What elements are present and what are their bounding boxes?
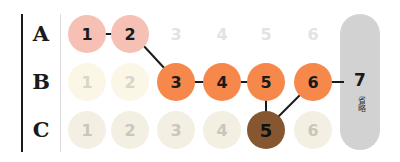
terminal-note: 省略: [340, 96, 380, 112]
cell-a2[interactable]: 2: [111, 15, 149, 53]
cell-b2[interactable]: 2: [111, 63, 149, 101]
cell-c1[interactable]: 1: [68, 111, 106, 149]
cell-a6[interactable]: 6: [294, 15, 332, 53]
cell-b5[interactable]: 5: [247, 63, 285, 101]
cell-a1[interactable]: 1: [68, 15, 106, 53]
cell-a3[interactable]: 3: [157, 15, 195, 53]
cell-b4[interactable]: 4: [203, 63, 241, 101]
terminal-number: 7: [340, 70, 380, 90]
cell-c4[interactable]: 4: [203, 111, 241, 149]
cell-b6[interactable]: 6: [294, 63, 332, 101]
cell-b3[interactable]: 3: [157, 63, 195, 101]
cell-a4[interactable]: 4: [203, 15, 241, 53]
cell-c5[interactable]: 5: [247, 111, 285, 149]
cell-a5[interactable]: 5: [247, 15, 285, 53]
cell-c6[interactable]: 6: [294, 111, 332, 149]
cell-c2[interactable]: 2: [111, 111, 149, 149]
cell-c3[interactable]: 3: [157, 111, 195, 149]
cell-b1[interactable]: 1: [68, 63, 106, 101]
